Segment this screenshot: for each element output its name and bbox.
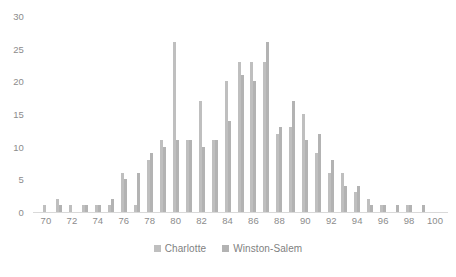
bar-group xyxy=(429,16,442,212)
bar-group xyxy=(416,16,429,212)
bar-group xyxy=(169,16,182,212)
bar-group xyxy=(351,16,364,212)
bar-group xyxy=(52,16,65,212)
plot-area xyxy=(33,16,448,212)
bar-group xyxy=(325,16,338,212)
bar-group xyxy=(338,16,351,212)
x-axis-tick-label: 74 xyxy=(92,215,103,226)
bar[interactable] xyxy=(189,140,192,212)
legend-label: Winston-Salem xyxy=(233,243,302,254)
bar-group xyxy=(39,16,52,212)
bar[interactable] xyxy=(331,160,334,212)
bar-group xyxy=(364,16,377,212)
bar[interactable] xyxy=(305,140,308,212)
y-axis-tick-label: 10 xyxy=(13,141,24,152)
bar-group xyxy=(156,16,169,212)
x-axis-tick-label: 100 xyxy=(427,215,443,226)
legend-swatch-icon xyxy=(222,245,229,252)
legend-item-charlotte[interactable]: Charlotte xyxy=(154,243,206,254)
bar[interactable] xyxy=(266,42,269,212)
bar[interactable] xyxy=(163,147,166,212)
y-axis-tick-label: 0 xyxy=(19,207,24,218)
bar-group xyxy=(377,16,390,212)
bar[interactable] xyxy=(318,134,321,212)
bar[interactable] xyxy=(357,186,360,212)
x-axis: 707274767880828486889092949698100 xyxy=(33,215,448,231)
legend-swatch-icon xyxy=(154,245,161,252)
bar[interactable] xyxy=(344,186,347,212)
x-axis-tick-label: 78 xyxy=(144,215,155,226)
bar-group xyxy=(273,16,286,212)
bar[interactable] xyxy=(137,173,140,212)
bar-group xyxy=(182,16,195,212)
y-axis-tick-label: 25 xyxy=(13,43,24,54)
bar-group xyxy=(130,16,143,212)
x-axis-tick-label: 92 xyxy=(326,215,337,226)
y-axis: 302520151050 xyxy=(0,16,28,212)
x-axis-tick-label: 88 xyxy=(274,215,285,226)
x-axis-tick-label: 82 xyxy=(196,215,207,226)
bar-group xyxy=(143,16,156,212)
y-axis-tick-label: 30 xyxy=(13,11,24,22)
bar-group xyxy=(91,16,104,212)
bar[interactable] xyxy=(111,199,114,212)
x-axis-tick-label: 80 xyxy=(170,215,181,226)
bar[interactable] xyxy=(292,101,295,212)
bar-group xyxy=(195,16,208,212)
x-axis-tick-label: 98 xyxy=(404,215,415,226)
x-axis-tick-label: 70 xyxy=(41,215,52,226)
bar[interactable] xyxy=(150,153,153,212)
bar-group xyxy=(390,16,403,212)
bar-group xyxy=(247,16,260,212)
bar-group xyxy=(104,16,117,212)
legend-label: Charlotte xyxy=(165,243,206,254)
bar-group xyxy=(312,16,325,212)
chart-legend: Charlotte Winston-Salem xyxy=(0,243,456,254)
bar[interactable] xyxy=(253,81,256,212)
bar-group xyxy=(403,16,416,212)
legend-item-winston-salem[interactable]: Winston-Salem xyxy=(222,243,302,254)
bar-group xyxy=(260,16,273,212)
bar-group xyxy=(286,16,299,212)
y-axis-tick-label: 5 xyxy=(19,174,24,185)
bar[interactable] xyxy=(176,140,179,212)
y-axis-tick-label: 20 xyxy=(13,76,24,87)
bar[interactable] xyxy=(228,121,231,212)
bar-group xyxy=(221,16,234,212)
bar-group xyxy=(234,16,247,212)
bar-group xyxy=(65,16,78,212)
bar[interactable] xyxy=(279,127,282,212)
bar[interactable] xyxy=(241,75,244,212)
bar-group xyxy=(117,16,130,212)
x-axis-line xyxy=(33,212,448,213)
bar-group xyxy=(78,16,91,212)
x-axis-tick-label: 96 xyxy=(378,215,389,226)
y-axis-tick-label: 15 xyxy=(13,109,24,120)
bar[interactable] xyxy=(215,140,218,212)
x-axis-tick-label: 94 xyxy=(352,215,363,226)
histogram-chart: 302520151050 707274767880828486889092949… xyxy=(0,0,456,277)
x-axis-tick-label: 84 xyxy=(222,215,233,226)
bar[interactable] xyxy=(202,147,205,212)
bar[interactable] xyxy=(124,179,127,212)
bar-group xyxy=(299,16,312,212)
x-axis-tick-label: 90 xyxy=(300,215,311,226)
x-axis-tick-label: 76 xyxy=(118,215,129,226)
x-axis-tick-label: 86 xyxy=(248,215,259,226)
bars-layer xyxy=(33,16,448,212)
x-axis-tick-label: 72 xyxy=(67,215,78,226)
bar-group xyxy=(208,16,221,212)
